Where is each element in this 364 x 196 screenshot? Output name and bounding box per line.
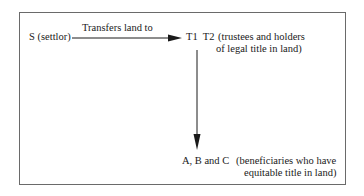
beneficiaries-desc-line1: (beneficiaries who have — [236, 155, 336, 167]
trustees-desc-line1: (trustees and holders — [218, 31, 305, 43]
trustees-names: T1 T2 — [186, 31, 214, 43]
transfer-label: Transfers land to — [82, 22, 153, 34]
trust-arrow — [194, 50, 201, 150]
trustees-desc-line2: of legal title in land) — [216, 43, 302, 55]
beneficiaries-names: A, B and C — [182, 155, 229, 167]
settlor-label: S (settlor) — [29, 31, 71, 43]
beneficiaries-desc-line2: equitable title in land) — [244, 167, 336, 179]
transfer-arrow — [72, 35, 182, 42]
